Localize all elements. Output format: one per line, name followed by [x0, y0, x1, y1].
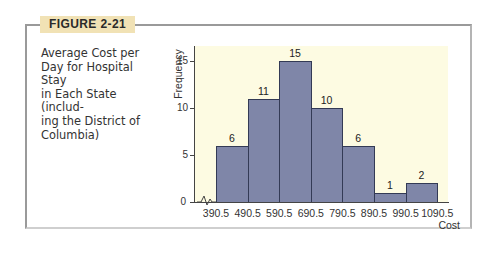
bar-value-label: 15: [280, 47, 310, 59]
y-tick-label: 15: [168, 55, 188, 66]
bar-value-label: 11: [248, 85, 278, 97]
caption-line: in Each State (includ-: [41, 88, 161, 115]
bar-value-label: 1: [375, 179, 405, 191]
bar-value-label: 2: [406, 169, 436, 181]
histogram-bar: [342, 146, 375, 203]
y-axis-label: Frequency: [172, 44, 184, 104]
caption-line: ing the District of: [41, 115, 161, 129]
histogram-bar: [279, 61, 312, 203]
histogram-bar: [216, 146, 249, 203]
y-tick-label: 5: [168, 149, 188, 160]
caption-line: Day for Hospital Stay: [41, 61, 161, 88]
figure-caption: Average Cost per Day for Hospital Stay i…: [41, 47, 161, 142]
caption-line: Average Cost per: [41, 47, 161, 61]
histogram-bar: [406, 183, 439, 203]
bar-value-label: 10: [312, 94, 342, 106]
axis-break-icon: [197, 194, 217, 206]
figure-label: FIGURE 2-21: [40, 16, 135, 33]
y-axis: [194, 46, 195, 203]
histogram-bar: [248, 99, 281, 203]
x-tick-label: 1090.5: [417, 207, 457, 219]
bar-value-label: 6: [343, 132, 373, 144]
y-tick-label: 0: [166, 196, 186, 207]
caption-line: Columbia): [41, 129, 161, 143]
x-axis-label: Cost: [420, 219, 460, 231]
x-axis: [194, 202, 449, 203]
bar-value-label: 6: [217, 132, 247, 144]
histogram-bar: [311, 108, 344, 203]
y-tick-label: 10: [168, 102, 188, 113]
